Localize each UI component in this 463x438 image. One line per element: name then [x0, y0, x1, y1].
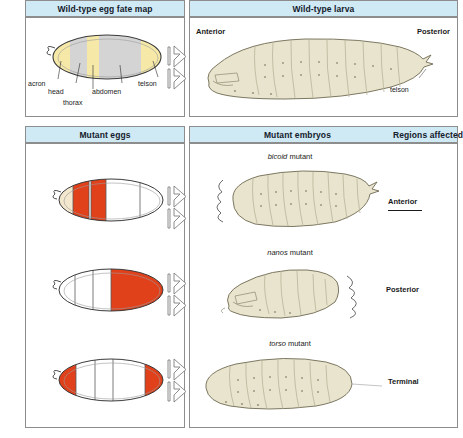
- wildtype-egg-diagram: [25, 17, 185, 117]
- header-mutant-eggs-label: Mutant eggs: [79, 130, 130, 140]
- region-affected-nanos: Posterior: [386, 285, 419, 294]
- embryo-bicoid-drawing: [205, 162, 395, 237]
- header-mutant-embryos: Mutant embryos Regions affected: [189, 126, 458, 143]
- mutant-egg-bicoid: [45, 172, 175, 228]
- gene-name-nanos: nanos: [267, 248, 287, 257]
- arrow-connector-top: [166, 45, 192, 90]
- gene-name-torso: torso: [269, 339, 286, 348]
- gene-name-bicoid: bicoid: [268, 152, 288, 161]
- region-affected-torso: Terminal: [388, 377, 419, 386]
- header-wildtype-egg-label: Wild-type egg fate map: [57, 4, 152, 14]
- header-mutant-embryos-label: Mutant embryos: [264, 130, 331, 140]
- label-abdomen: abdomen: [92, 88, 121, 95]
- label-head: head: [48, 88, 64, 95]
- embryo-nanos-drawing: [215, 258, 375, 328]
- header-mutant-eggs: Mutant eggs: [25, 126, 185, 143]
- mutant-label-nanos: nanos mutant: [230, 248, 350, 257]
- arrow-connector-row2: [166, 272, 192, 317]
- mutant-suffix-nanos: mutant: [288, 248, 313, 257]
- header-wildtype-larva: Wild-type larva: [189, 0, 458, 17]
- header-wildtype-larva-label: Wild-type larva: [293, 4, 355, 14]
- mutant-label-torso: torso mutant: [230, 339, 350, 348]
- arrow-connector-row3: [166, 358, 192, 403]
- label-telson-egg: telson: [138, 80, 157, 87]
- mutant-egg-torso: [45, 352, 175, 408]
- label-acron: acron: [28, 80, 46, 87]
- mutant-label-bicoid: bicoid mutant: [230, 152, 350, 161]
- region-underline-bicoid: [388, 210, 422, 211]
- mutant-suffix-torso: mutant: [286, 339, 311, 348]
- mutant-suffix-bicoid: mutant: [287, 152, 312, 161]
- label-thorax: thorax: [63, 99, 82, 106]
- mutant-egg-nanos: [45, 262, 175, 318]
- region-affected-bicoid: Anterior: [388, 197, 417, 206]
- header-regions-affected-label: Regions affected: [393, 130, 463, 140]
- embryo-torso-drawing: [196, 348, 366, 418]
- arrow-connector-row1: [166, 185, 192, 230]
- wildtype-larva-drawing: [195, 25, 455, 115]
- header-wildtype-egg: Wild-type egg fate map: [25, 0, 185, 17]
- label-telson-larva: telson: [390, 86, 409, 93]
